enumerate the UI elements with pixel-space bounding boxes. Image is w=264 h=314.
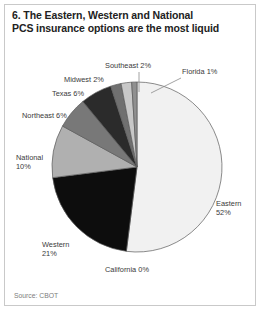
pie-slices xyxy=(52,82,222,252)
slice-label-southeast: Southeast 2% xyxy=(105,61,151,70)
slice-label-texas: Texas 6% xyxy=(52,89,84,98)
slice-label-florida: Florida 1% xyxy=(182,67,218,76)
slice-label-california: California 0% xyxy=(105,265,149,274)
pie-chart: Eastern 52% California 0% Western 21% Na… xyxy=(0,0,264,314)
slice-label-national: National 10% xyxy=(16,153,45,171)
slice-label-eastern: Eastern 52% xyxy=(216,199,244,217)
pie-slice-western[interactable] xyxy=(53,167,137,251)
slice-label-western: Western 21% xyxy=(42,240,71,258)
slice-label-midwest: Midwest 2% xyxy=(64,75,104,84)
slice-label-northeast: Northeast 6% xyxy=(22,111,67,120)
pie-slice-eastern[interactable] xyxy=(126,82,222,252)
source-note: Source: CBOT xyxy=(14,292,58,299)
